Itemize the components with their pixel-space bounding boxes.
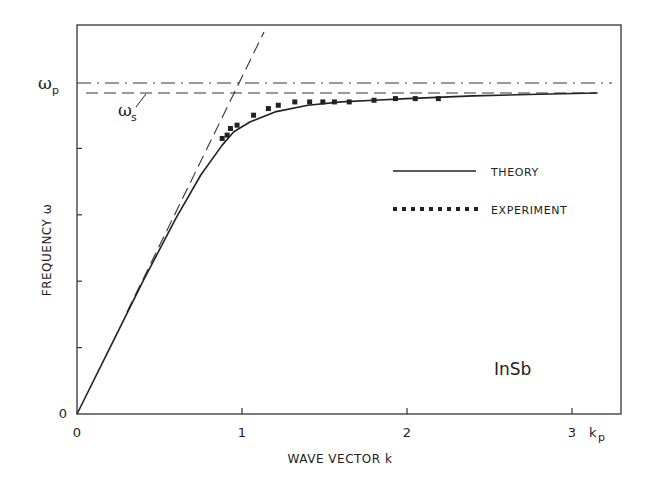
legend-marker: [447, 207, 451, 211]
x-tick-label: 1: [238, 425, 246, 440]
experiment-point: [228, 126, 233, 131]
x-tick-label: 2: [403, 425, 411, 440]
legend: THEORY EXPERIMENT: [393, 166, 567, 217]
experiment-point: [266, 106, 271, 111]
x-tick-label: 3: [568, 425, 576, 440]
svg-text:k: k: [589, 425, 597, 440]
legend-marker: [438, 207, 442, 211]
legend-marker: [429, 207, 433, 211]
experiment-point: [292, 99, 297, 104]
omega-p-label: ω p: [38, 73, 59, 97]
y-tick-label: 0: [59, 406, 67, 421]
legend-marker: [420, 207, 424, 211]
experiment-point: [251, 113, 256, 118]
omega-s-label: ω s: [118, 94, 146, 124]
y-axis-title: FREQUENCY ω: [40, 204, 54, 296]
experiment-point: [320, 99, 325, 104]
svg-text:p: p: [598, 431, 605, 444]
legend-marker: [465, 207, 469, 211]
x-tick-label: 0: [73, 425, 81, 440]
experiment-point: [225, 133, 230, 138]
experiment-point: [436, 96, 441, 101]
legend-experiment-swatch: [393, 207, 478, 211]
legend-theory-label: THEORY: [490, 166, 539, 179]
experiment-point: [393, 96, 398, 101]
material-label: InSb: [494, 359, 531, 379]
asymptote-line: [127, 32, 264, 312]
legend-experiment-label: EXPERIMENT: [491, 204, 567, 217]
legend-marker: [474, 207, 478, 211]
experiment-point: [347, 99, 352, 104]
experiment-point: [235, 123, 240, 128]
svg-text:ω: ω: [38, 73, 52, 93]
legend-marker: [393, 207, 397, 211]
svg-text:s: s: [131, 111, 137, 124]
experiment-point: [413, 96, 418, 101]
experiment-point: [372, 98, 377, 103]
legend-marker: [411, 207, 415, 211]
svg-text:p: p: [52, 84, 59, 97]
x-unit-label: k p: [589, 425, 605, 444]
legend-marker: [402, 207, 406, 211]
dispersion-chart: 01230 WAVE VECTOR k FREQUENCY ω k p InSb…: [0, 0, 648, 488]
experiment-point: [276, 103, 281, 108]
experiment-point: [220, 136, 225, 141]
experiment-point: [332, 99, 337, 104]
svg-text:ω: ω: [118, 100, 132, 120]
experiment-point: [307, 99, 312, 104]
legend-marker: [456, 207, 460, 211]
x-axis-title: WAVE VECTOR k: [288, 452, 393, 466]
